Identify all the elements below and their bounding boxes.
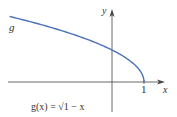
curve-label-g: g [9, 22, 15, 33]
y-axis-label: y [102, 6, 106, 16]
function-formula: g(x) = √1 − x [31, 102, 84, 112]
x-axis-label: x [163, 85, 167, 95]
g-curve [10, 16, 144, 82]
x-tick-label-1: 1 [141, 84, 147, 95]
function-graph [0, 0, 177, 117]
